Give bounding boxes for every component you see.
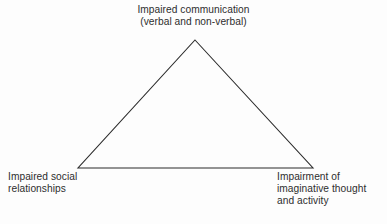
label-impaired-social-relationships: Impaired social relationships [8, 171, 77, 195]
label-bottom-left-line-2: relationships [8, 183, 77, 195]
label-top-line-2: (verbal and non-verbal) [0, 16, 387, 28]
label-bottom-left-line-1: Impaired social [8, 171, 77, 183]
label-top-line-1: Impaired communication [0, 4, 387, 16]
label-impaired-communication: Impaired communication (verbal and non-v… [0, 4, 387, 28]
label-bottom-right-line-1: Impairment of [277, 171, 366, 183]
label-bottom-right-line-2: imaginative thought [277, 183, 366, 195]
label-bottom-right-line-3: and activity [277, 195, 366, 207]
diagram-canvas: Impaired communication (verbal and non-v… [0, 0, 387, 224]
label-impairment-imaginative-thought: Impairment of imaginative thought and ac… [277, 171, 366, 207]
triangle-outline [78, 40, 313, 168]
